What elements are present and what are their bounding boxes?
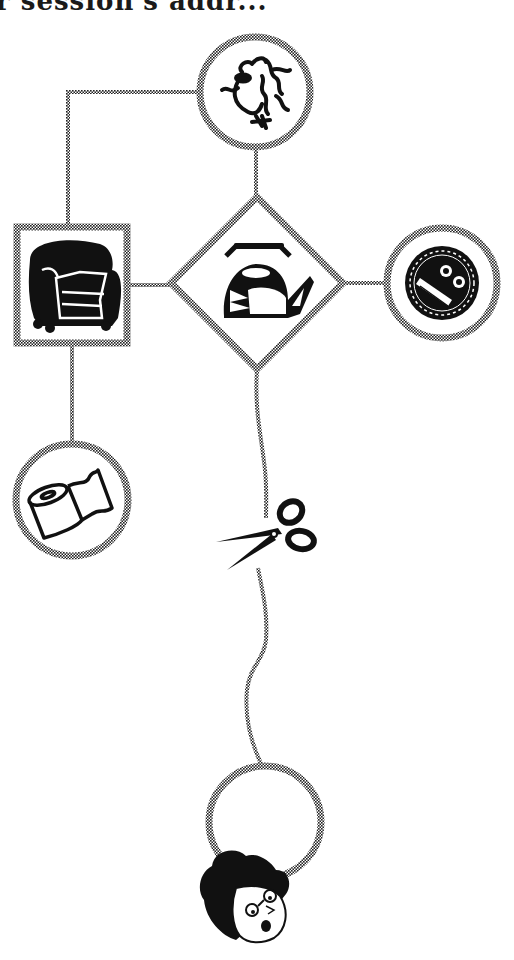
node-face[interactable] xyxy=(200,37,310,147)
node-kettle[interactable] xyxy=(171,197,343,369)
connectors xyxy=(68,92,386,766)
connector-kettle-scissors xyxy=(256,370,266,518)
armchair-icon xyxy=(29,240,121,333)
node-toilet-roll[interactable] xyxy=(16,444,128,556)
connector-face-armchair xyxy=(68,92,200,226)
diagram-canvas xyxy=(0,0,514,960)
node-badge[interactable] xyxy=(387,228,497,338)
node-armchair[interactable] xyxy=(17,227,127,343)
connector-scissors-ring xyxy=(246,568,266,766)
badge-icon xyxy=(405,246,479,320)
